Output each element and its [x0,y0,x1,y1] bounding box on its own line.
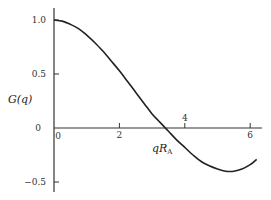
x-tick-label: 6 [247,130,253,140]
x-tick-label: 4 [182,113,188,123]
y-tick-label: 1.0 [32,15,47,25]
y-tick-label: 0.5 [32,69,47,79]
x-tick-label: 0 [55,131,61,141]
chart: 1.00.50−0.5 0246 G(q) qRA [0,0,271,200]
y-axis-label: G(q) [8,93,32,106]
x-axis-label: qRA [152,142,173,156]
y-tick-label: −0.5 [24,177,46,187]
x-axis-label-subscript: A [166,148,173,156]
x-axis-label-main: qR [152,142,167,155]
y-tick-label: 0 [35,123,41,133]
x-tick-label: 2 [117,130,123,140]
